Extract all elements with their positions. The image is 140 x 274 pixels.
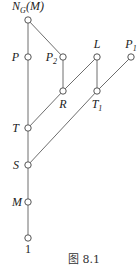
node-M [25, 199, 31, 205]
label-P1: P1 [124, 37, 136, 53]
node-one [25, 235, 31, 241]
edge-P1-T1 [97, 57, 131, 91]
node-P2 [60, 54, 66, 60]
edges [28, 20, 131, 238]
figure-caption: 图 8.1 [68, 250, 100, 266]
node-P [25, 54, 31, 60]
label-P2: P2 [45, 50, 57, 66]
label-L: L [93, 37, 101, 51]
node-T1 [94, 88, 100, 94]
nodes [25, 17, 134, 241]
node-R [60, 88, 66, 94]
label-T1: T1 [92, 97, 103, 113]
label-M: M [11, 195, 23, 209]
node-L [94, 54, 100, 60]
label-T: T [12, 121, 20, 135]
node-S [25, 162, 31, 168]
label-S: S [13, 158, 19, 172]
lattice-diagram: NG(M)PP2LP1RT1TSM1 [0, 0, 140, 274]
label-one: 1 [25, 242, 31, 256]
label-P: P [11, 50, 20, 64]
edge-R-T [28, 91, 63, 128]
node-NGM [25, 17, 31, 23]
label-NGM: NG(M) [11, 0, 44, 15]
node-P1 [128, 54, 134, 60]
label-R: R [58, 97, 67, 111]
edge-L-R [63, 57, 97, 91]
node-T [25, 125, 31, 131]
